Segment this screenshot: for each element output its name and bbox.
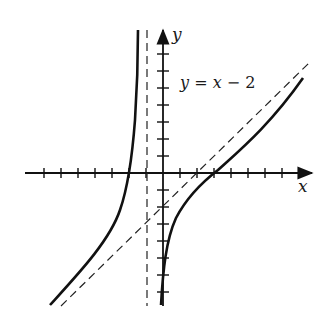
y-axis bbox=[157, 30, 169, 306]
graph-figure: y x y = x − 2 bbox=[0, 0, 325, 328]
oblique-asymptote bbox=[61, 62, 310, 306]
y-axis-label: y bbox=[171, 24, 182, 44]
curve-right-branch bbox=[161, 78, 303, 305]
x-axis bbox=[25, 168, 312, 178]
x-axis-label: x bbox=[298, 176, 308, 196]
graph-canvas: y x y = x − 2 bbox=[0, 0, 325, 328]
asymptote-equation-label: y = x − 2 bbox=[179, 73, 255, 92]
curve-left-branch bbox=[50, 30, 138, 305]
